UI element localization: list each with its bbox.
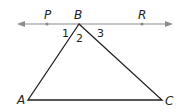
angle-1-label: 1: [62, 27, 69, 40]
geometry-diagram: P B R A C 1 2 3: [0, 0, 181, 112]
angle-2-label: 2: [76, 32, 83, 45]
triangle-abc: [28, 24, 162, 100]
label-r: R: [138, 8, 146, 22]
label-b: B: [74, 8, 82, 22]
point-r: [140, 22, 143, 25]
label-p: P: [44, 8, 52, 22]
point-p: [45, 22, 48, 25]
left-arrow-icon: [17, 21, 25, 27]
angle-3-label: 3: [97, 27, 104, 40]
label-c: C: [165, 94, 174, 108]
right-arrow-icon: [165, 21, 173, 27]
label-a: A: [16, 93, 25, 107]
line-pr: [17, 21, 173, 27]
